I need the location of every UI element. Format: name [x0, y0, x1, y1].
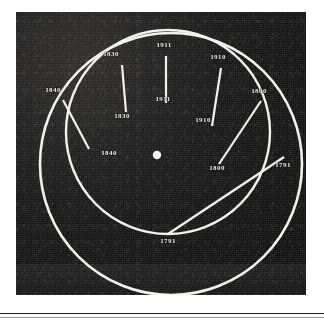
inner-label-1910: 1910 [195, 117, 211, 124]
page-rule-light [0, 317, 324, 318]
scanned-plate: 1840 1830 1911 1910 1800 1791 1840 1830 … [16, 12, 306, 295]
outer-label-1791: 1791 [275, 162, 291, 169]
inner-label-1800: 1800 [209, 165, 225, 172]
page-rule-dark [0, 313, 324, 314]
inner-label-1830: 1830 [114, 113, 130, 120]
plate-page: 1840 1830 1911 1910 1800 1791 1840 1830 … [0, 0, 324, 323]
outer-circle [40, 33, 302, 295]
inner-label-1911: 1911 [155, 96, 170, 103]
radial-line-1830 [122, 65, 126, 112]
chord-line-1791 [168, 157, 284, 234]
polar-diagram [16, 12, 306, 295]
outer-label-1911: 1911 [156, 42, 171, 49]
inner-label-1791: 1791 [160, 238, 176, 245]
radial-line-1800 [219, 101, 261, 164]
outer-label-1910: 1910 [210, 54, 226, 61]
inner-label-1840: 1840 [101, 150, 117, 157]
center-dot [153, 151, 161, 159]
outer-label-1840: 1840 [45, 87, 61, 94]
radial-line-1910 [212, 68, 221, 126]
outer-label-1830: 1830 [103, 51, 119, 58]
outer-label-1800: 1800 [251, 88, 267, 95]
